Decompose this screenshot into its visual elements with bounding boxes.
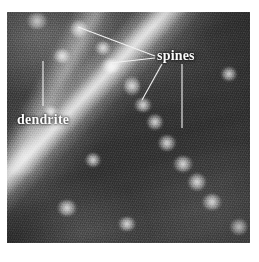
vignette-overlay — [7, 12, 250, 243]
figure-photomicrograph: spines dendrite — [0, 0, 259, 262]
micrograph-plate — [7, 12, 250, 243]
annotation-label-spines: spines — [157, 49, 195, 63]
scan-artifact-bottom — [0, 246, 259, 260]
scan-artifact-top — [0, 0, 259, 11]
annotation-label-dendrite: dendrite — [17, 113, 69, 127]
